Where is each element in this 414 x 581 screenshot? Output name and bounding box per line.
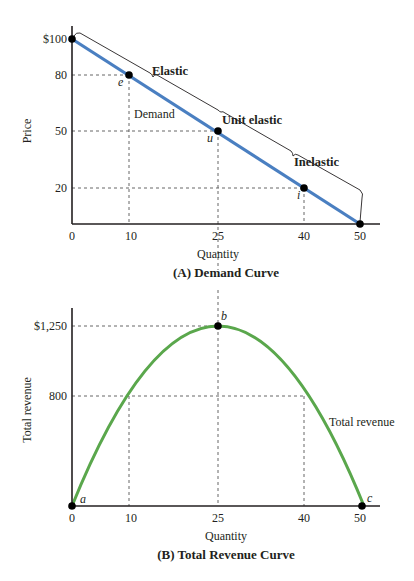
point-u — [214, 127, 222, 135]
point-b — [214, 322, 222, 330]
label-elastic: Elastic — [152, 64, 189, 78]
b-xtick-0: 0 — [69, 511, 75, 525]
label-e: e — [118, 75, 124, 89]
label-total-revenue: Total revenue — [329, 415, 394, 429]
panel-b-gridlines — [72, 290, 304, 506]
ytick-80: 80 — [55, 68, 67, 82]
point-a — [68, 502, 76, 510]
point-i — [300, 184, 308, 192]
panel-b-total-revenue-curve: a b c Total revenue $1,250 800 0 10 25 4… — [20, 290, 394, 562]
panel-a-x-label: Quantity — [197, 247, 239, 261]
xtick-50: 50 — [354, 229, 366, 243]
panel-a-gridlines — [72, 75, 304, 270]
panel-b-y-label: Total revenue — [20, 377, 34, 442]
panel-b-x-label: Quantity — [205, 529, 247, 543]
label-unit-elastic: Unit elastic — [222, 113, 283, 127]
label-b: b — [221, 309, 227, 323]
point-50 — [356, 220, 364, 228]
xtick-0: 0 — [69, 229, 75, 243]
xtick-25: 25 — [212, 229, 224, 243]
ytick-20: 20 — [55, 181, 67, 195]
ytick-800: 800 — [49, 389, 67, 403]
label-u: u — [207, 131, 213, 145]
b-xtick-25: 25 — [212, 511, 224, 525]
label-inelastic: Inelastic — [294, 155, 340, 169]
point-e — [125, 71, 133, 79]
b-xtick-10: 10 — [125, 511, 137, 525]
panel-b-title: (B) Total Revenue Curve — [157, 547, 295, 562]
panel-a-y-label: Price — [20, 119, 34, 144]
point-c — [358, 502, 366, 510]
label-a: a — [80, 492, 86, 506]
label-demand: Demand — [134, 107, 175, 121]
b-xtick-40: 40 — [298, 511, 310, 525]
ytick-100: $100 — [43, 32, 67, 46]
b-xtick-50: 50 — [354, 511, 366, 525]
figure: e u i Elastic Unit elastic Inelastic Dem… — [0, 0, 414, 581]
label-i: i — [297, 188, 300, 202]
xtick-40: 40 — [298, 229, 310, 243]
point-100 — [68, 35, 76, 43]
ytick-1250: $1,250 — [34, 319, 67, 333]
panel-a-title: (A) Demand Curve — [173, 265, 279, 280]
label-c: c — [367, 491, 373, 505]
xtick-10: 10 — [125, 229, 137, 243]
panel-a-demand-curve: e u i Elastic Unit elastic Inelastic Dem… — [20, 26, 380, 280]
ytick-50: 50 — [55, 124, 67, 138]
